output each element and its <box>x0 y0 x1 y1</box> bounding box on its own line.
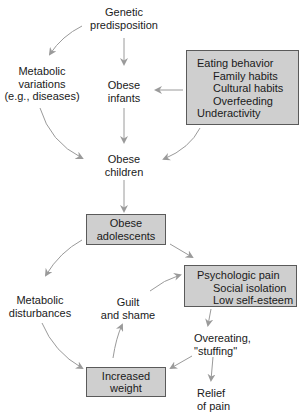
node-text: Obese <box>94 153 154 166</box>
box-title: Eating behavior <box>197 57 298 70</box>
node-text: Overeating, <box>194 332 251 345</box>
node-text: Metabolic <box>0 65 84 78</box>
node-relief-of-pain: Relief of pain <box>197 387 230 412</box>
node-obese-children: Obese children <box>94 153 154 178</box>
node-overeating-stuffing: Overeating, "stuffing" <box>194 332 251 357</box>
box-subitem: Cultural habits <box>197 82 298 95</box>
arrow-overeating-to-weight <box>171 356 192 368</box>
node-text: variations <box>0 78 84 91</box>
node-text: "stuffing" <box>194 345 251 358</box>
node-genetic-predisposition: Genetic predisposition <box>84 6 164 31</box>
node-text: (e.g., diseases) <box>0 90 84 103</box>
arrow-genetic-to-metabolic-variations <box>50 26 82 54</box>
box-obese-adolescents: Obese adolescents <box>86 214 166 245</box>
node-text: Obese <box>87 217 165 230</box>
obesity-flow-diagram: Genetic predisposition Metabolic variati… <box>0 0 306 414</box>
arrow-overeating-to-relief <box>211 357 213 380</box>
node-metabolic-disturbances: Metabolic disturbances <box>0 294 80 319</box>
node-metabolic-variations: Metabolic variations (e.g., diseases) <box>0 65 84 103</box>
arrow-psychologic-pain-to-overeating <box>208 309 211 325</box>
node-text: predisposition <box>84 19 164 32</box>
arrow-adolescents-to-psychologic-pain <box>170 244 192 257</box>
arrow-eating-to-children <box>164 128 200 159</box>
node-text: disturbances <box>0 307 80 320</box>
node-text: Increased <box>87 370 165 383</box>
arrow-weight-to-guilt <box>113 325 122 358</box>
box-subitem: Social isolation <box>197 282 296 295</box>
node-text: Guilt <box>98 296 158 309</box>
box-increased-weight: Increased weight <box>86 367 166 397</box>
arrow-guilt-to-psychologic-pain <box>150 275 180 291</box>
box-subitem: Family habits <box>197 70 298 83</box>
arrow-metabolic-disturbances-to-weight <box>42 323 82 368</box>
node-text: Metabolic <box>0 294 80 307</box>
node-text: Obese <box>94 79 154 92</box>
node-text: infants <box>94 92 154 105</box>
arrow-adolescents-to-metabolic-disturbances <box>46 240 82 275</box>
box-eating-behavior: Eating behavior Family habits Cultural h… <box>186 50 299 125</box>
node-text: of pain <box>197 400 230 413</box>
box-subitem: Underactivity <box>197 107 298 120</box>
node-text: adolescents <box>87 230 165 243</box>
box-psychologic-pain: Psychologic pain Social isolation Low se… <box>184 265 297 307</box>
box-subitem: Low self-esteem <box>197 294 296 307</box>
box-subitem: Overfeeding <box>197 95 298 108</box>
node-text: Genetic <box>84 6 164 19</box>
box-title: Psychologic pain <box>197 269 296 282</box>
node-text: children <box>94 166 154 179</box>
node-guilt-and-shame: Guilt and shame <box>98 296 158 321</box>
node-text: Relief <box>197 387 230 400</box>
node-text: and shame <box>98 309 158 322</box>
arrow-metabolic-variations-to-children <box>40 108 82 158</box>
node-text: weight <box>87 382 165 395</box>
node-obese-infants: Obese infants <box>94 79 154 104</box>
